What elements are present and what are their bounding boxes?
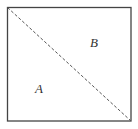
square-diagram bbox=[0, 0, 138, 129]
region-label-b: B bbox=[90, 36, 98, 49]
dashed-diagonal bbox=[8, 8, 132, 122]
region-label-a: A bbox=[35, 82, 43, 95]
